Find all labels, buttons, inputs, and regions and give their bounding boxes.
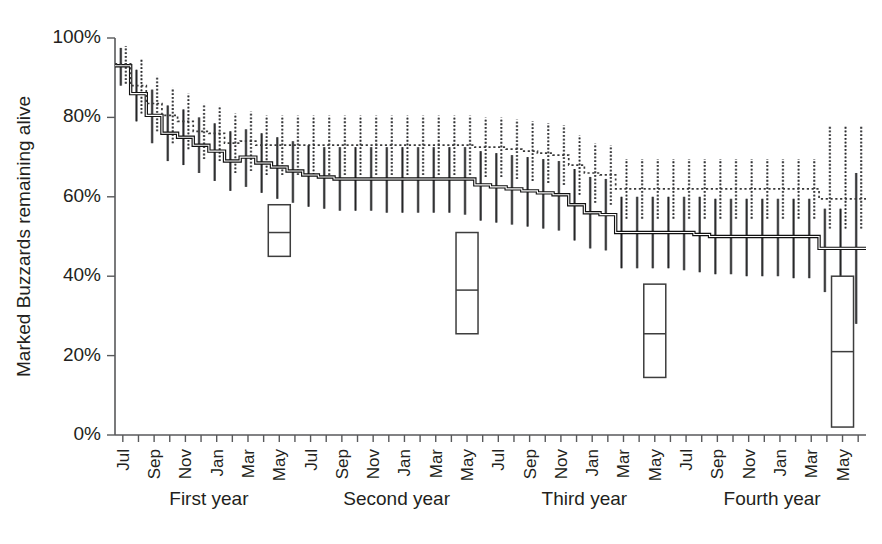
- y-axis-tick-label: 100%: [52, 26, 101, 47]
- x-axis-month-label: Jul: [489, 449, 508, 471]
- x-axis-year-label: Third year: [542, 488, 628, 509]
- x-axis-month-label: May: [646, 449, 665, 482]
- solid-curve-fill: [115, 66, 866, 249]
- y-axis-tick-label: 80%: [63, 105, 101, 126]
- y-axis-tick-label: 20%: [63, 344, 101, 365]
- x-axis-month-label: Mar: [614, 449, 633, 479]
- y-axis-tick-label: 60%: [63, 185, 101, 206]
- x-axis-month-label: Jul: [114, 449, 133, 471]
- x-axis-month-label: May: [270, 449, 289, 482]
- x-axis-month-label: Jul: [677, 449, 696, 471]
- x-axis-month-label: Sep: [708, 449, 727, 479]
- x-axis-year-label: Second year: [343, 488, 450, 509]
- x-axis-month-label: Nov: [740, 449, 759, 480]
- x-axis-month-label: Mar: [802, 449, 821, 479]
- box-third-year: [644, 284, 666, 377]
- x-axis-month-label: Sep: [145, 449, 164, 479]
- x-axis-month-label: Mar: [427, 449, 446, 479]
- chart-canvas: 0%20%40%60%80%100% Marked Buzzards remai…: [0, 0, 882, 544]
- y-axis: 0%20%40%60%80%100%: [52, 26, 115, 444]
- y-axis-tick-label: 0%: [74, 423, 102, 444]
- x-axis-month-label: Jan: [395, 449, 414, 476]
- x-axis-month-label: Nov: [364, 449, 383, 480]
- x-axis-month-label: Jul: [302, 449, 321, 471]
- x-axis-year-label: Fourth year: [724, 488, 822, 509]
- dotted-curve: [115, 64, 866, 199]
- x-axis-month-label: Sep: [333, 449, 352, 479]
- y-axis-tick-label: 40%: [63, 264, 101, 285]
- x-axis-month-label: Jan: [583, 449, 602, 476]
- x-axis-month-label: Jan: [208, 449, 227, 476]
- x-axis-year-label: First year: [169, 488, 249, 509]
- box-second-year: [456, 233, 478, 334]
- data-series: [115, 64, 866, 249]
- solid-curve-outline: [115, 66, 866, 249]
- x-axis-month-label: Nov: [176, 449, 195, 480]
- box-first-year: [268, 205, 290, 257]
- x-axis: [115, 435, 866, 442]
- x-axis-month-label: May: [834, 449, 853, 482]
- x-axis-month-label: Mar: [239, 449, 258, 479]
- x-axis-month-label: Nov: [552, 449, 571, 480]
- x-axis-month-label: Sep: [521, 449, 540, 479]
- y-axis-title: Marked Buzzards remaining alive: [13, 96, 34, 377]
- survival-chart: 0%20%40%60%80%100% Marked Buzzards remai…: [0, 0, 882, 544]
- x-axis-month-label: May: [458, 449, 477, 482]
- x-axis-month-label: Jan: [771, 449, 790, 476]
